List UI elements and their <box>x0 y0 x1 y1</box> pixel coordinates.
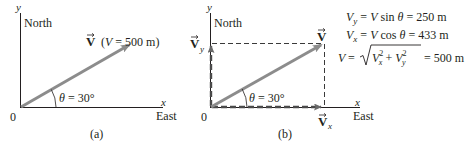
vx-subscript: x <box>327 121 332 131</box>
angle-arc <box>51 90 56 108</box>
caption-b: (b) <box>278 127 292 141</box>
equation-magnitude: V = V2x + V2y = 500 m <box>338 45 465 67</box>
vy-label: V y <box>190 35 204 54</box>
vector-v-symbol: V <box>317 29 327 44</box>
equations: Vy = V sin θ = 250 m Vx = V cos θ = 433 … <box>338 10 465 67</box>
equation-vy: Vy = V sin θ = 250 m <box>346 10 447 26</box>
north-label: North <box>24 16 52 30</box>
caption-a: (a) <box>90 127 103 141</box>
origin-label: 0 <box>10 110 16 124</box>
y-axis-label: y <box>206 1 212 13</box>
vector-v-label: V <box>317 28 327 44</box>
x-axis-label: x <box>160 96 166 108</box>
vector-v-symbol: V <box>86 34 96 49</box>
equation-vx: Vx = V cos θ = 433 m <box>346 28 449 44</box>
magnitude-eq: = <box>345 51 358 65</box>
vx-symbol: V <box>318 114 328 129</box>
vector-components-diagram: y North V (V = 500 m) θ = 30° 0 x East (… <box>0 0 466 155</box>
panel-a: y North V (V = 500 m) θ = 30° 0 x East (… <box>10 1 177 141</box>
vector-v-annotation: (V = 500 m) <box>101 35 159 49</box>
east-label: East <box>156 109 177 123</box>
east-label: East <box>353 109 374 123</box>
vx-label: V x <box>318 113 332 131</box>
angle-label: θ = 30° <box>249 91 285 105</box>
vector-v-label: V (V = 500 m) <box>86 33 159 49</box>
y-axis-label: y <box>15 1 21 13</box>
x-axis-label: x <box>354 96 360 108</box>
vy-subscript: y <box>199 44 204 54</box>
vy-symbol: V <box>190 36 200 51</box>
origin-label: 0 <box>201 110 207 124</box>
radicand: V2x + V2y <box>372 49 407 67</box>
angle-arc <box>242 89 247 107</box>
magnitude-result: = 500 m <box>421 51 465 65</box>
north-label: North <box>214 16 242 30</box>
angle-label: θ = 30° <box>59 91 95 105</box>
